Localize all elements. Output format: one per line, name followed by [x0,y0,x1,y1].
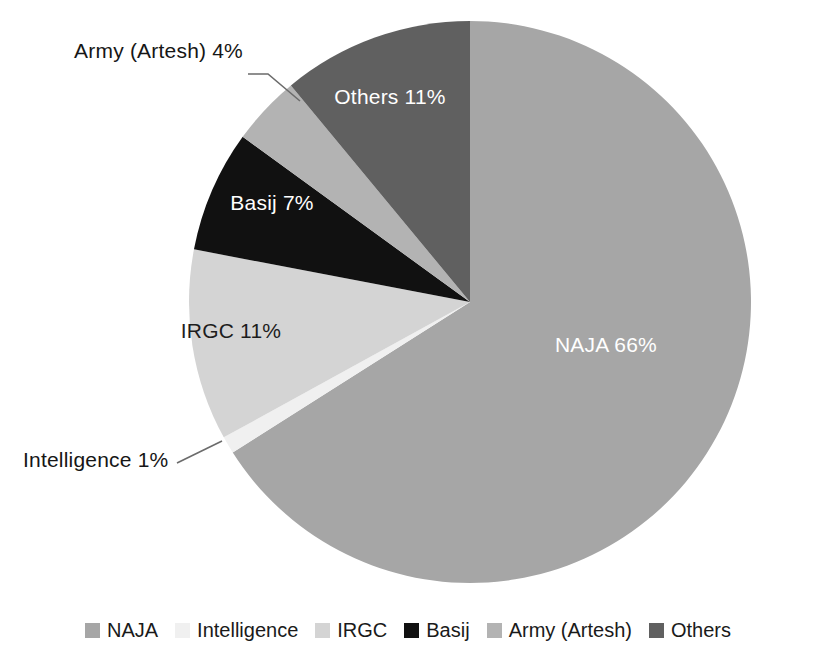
legend-item-basij[interactable]: Basij [404,620,469,640]
legend-item-army-artesh[interactable]: Army (Artesh) [487,620,632,640]
legend-swatch-intelligence [175,623,190,638]
legend-label-naja: NAJA [107,620,158,640]
legend-item-intelligence[interactable]: Intelligence [175,620,298,640]
legend-label-army-artesh: Army (Artesh) [509,620,632,640]
legend-item-others[interactable]: Others [649,620,731,640]
pie-slices-group [189,21,751,583]
legend-label-intelligence: Intelligence [197,620,298,640]
legend-label-others: Others [671,620,731,640]
legend-item-naja[interactable]: NAJA [85,620,158,640]
slice-label-others: Others 11% [334,85,445,108]
chart-legend: NAJA Intelligence IRGC Basij Army (Artes… [0,614,816,646]
legend-swatch-naja [85,623,100,638]
pie-chart-figure: NAJA 66% Intelligence 1% IRGC 11% Basij … [0,0,816,655]
legend-swatch-irgc [315,623,330,638]
legend-item-irgc[interactable]: IRGC [315,620,387,640]
pie-chart-canvas: NAJA 66% Intelligence 1% IRGC 11% Basij … [0,0,816,655]
legend-swatch-others [649,623,664,638]
slice-label-irgc: IRGC 11% [181,319,281,342]
legend-swatch-basij [404,623,419,638]
slice-label-basij: Basij 7% [230,191,313,214]
legend-label-irgc: IRGC [337,620,387,640]
intelligence-leader-line [177,441,222,463]
slice-label-army-artesh: Army (Artesh) 4% [74,39,243,62]
legend-swatch-army-artesh [487,623,502,638]
slice-label-naja: NAJA 66% [555,333,657,356]
legend-label-basij: Basij [426,620,469,640]
slice-label-intelligence: Intelligence 1% [23,448,168,471]
